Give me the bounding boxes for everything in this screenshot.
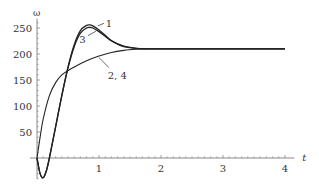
x-axis-label: t [302, 152, 307, 163]
y-tick-label: 100 [13, 101, 32, 112]
plot-area: 123450100150200250tω 132, 4 [0, 0, 319, 190]
series-line-2-4 [37, 49, 285, 158]
y-tick-label: 150 [13, 75, 32, 86]
curve-label-3: 3 [79, 34, 85, 45]
y-tick-label: 200 [13, 49, 32, 60]
y-axis-label: ω [33, 8, 40, 18]
x-tick-label: 3 [220, 163, 226, 174]
curve-label-2-4: 2, 4 [108, 70, 127, 81]
chart: 123450100150200250tω 132, 4 [0, 0, 319, 190]
x-tick-label: 2 [158, 163, 164, 174]
axes: 123450100150200250tω [13, 8, 307, 179]
x-tick-label: 1 [96, 163, 102, 174]
y-tick-label: 50 [19, 127, 32, 138]
curves [37, 25, 285, 178]
curve-label-1: 1 [106, 18, 112, 29]
y-tick-label: 250 [13, 23, 32, 34]
x-tick-label: 4 [282, 163, 288, 174]
